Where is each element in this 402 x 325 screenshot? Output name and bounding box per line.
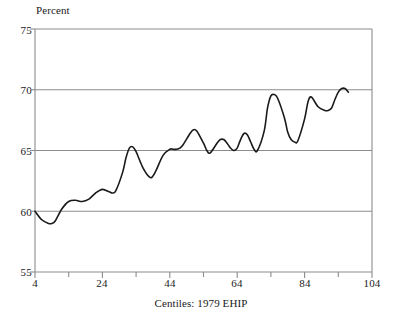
x-tick-marks bbox=[35, 272, 372, 278]
chart-figure: Percent 75 70 65 60 55 4 24 44 64 84 104… bbox=[0, 0, 402, 325]
data-series-line bbox=[35, 88, 348, 224]
plot-area bbox=[0, 0, 402, 325]
gridlines bbox=[30, 29, 372, 272]
